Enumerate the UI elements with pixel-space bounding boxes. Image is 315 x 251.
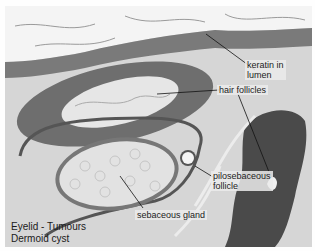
histology-image: keratin in lumen hair follicles piloseba…: [5, 6, 312, 247]
label-line: keratin in: [247, 60, 284, 70]
label-text: sebaceous gland: [137, 210, 205, 220]
label-keratin-in-lumen: keratin in lumen: [245, 60, 286, 80]
image-caption: Eyelid - Tumours Dermoid cyst: [11, 221, 86, 245]
micrograph-frame: keratin in lumen hair follicles piloseba…: [0, 0, 315, 251]
label-line: follicle: [213, 181, 271, 191]
caption-line-2: Dermoid cyst: [11, 233, 86, 245]
label-hair-follicles: hair follicles: [217, 85, 268, 95]
label-pilosebaceous-follicle: pilosebaceous follicle: [211, 171, 273, 191]
label-line: lumen: [247, 70, 284, 80]
label-line: pilosebaceous: [213, 171, 271, 181]
label-text: hair follicles: [219, 85, 266, 95]
caption-line-1: Eyelid - Tumours: [11, 221, 86, 233]
label-sebaceous-gland: sebaceous gland: [135, 210, 207, 220]
